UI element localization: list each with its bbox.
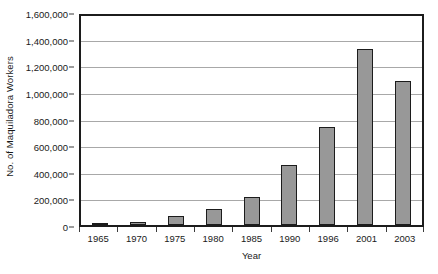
x-axis-tick-cell bbox=[156, 227, 194, 232]
x-axis-tick-label: 1975 bbox=[156, 233, 194, 249]
bar bbox=[206, 209, 222, 225]
y-axis-tick-mark bbox=[69, 200, 74, 201]
bar-slot bbox=[119, 16, 157, 225]
x-axis-tick-cell bbox=[309, 227, 347, 232]
y-axis-title-label: No. of Maquiladora Workers bbox=[4, 56, 15, 177]
x-axis-tick-cell bbox=[79, 227, 117, 232]
y-axis-tick-labels: 0200,000400,000600,000800,0001,000,0001,… bbox=[18, 14, 74, 227]
y-axis-tick-label: 1,600,000 bbox=[26, 9, 68, 20]
y-axis-tick-mark bbox=[69, 93, 74, 94]
bar bbox=[319, 127, 335, 225]
x-axis-tick-cell bbox=[386, 227, 424, 232]
bar-slot bbox=[270, 16, 308, 225]
x-axis-tick-label: 1980 bbox=[194, 233, 232, 249]
y-axis-tick-label: 1,000,000 bbox=[26, 88, 68, 99]
bar-slot bbox=[157, 16, 195, 225]
y-axis-tick-label: 600,000 bbox=[34, 142, 68, 153]
x-axis-tick-mark bbox=[309, 227, 310, 232]
bar bbox=[92, 223, 108, 225]
x-axis-tick-mark bbox=[386, 227, 387, 232]
x-axis-tick-mark bbox=[271, 227, 272, 232]
x-axis-tick-mark bbox=[117, 227, 118, 232]
bar bbox=[244, 197, 260, 225]
y-axis-tick-label: 1,200,000 bbox=[26, 62, 68, 73]
y-axis-tick-mark bbox=[69, 147, 74, 148]
y-axis-tick-label: 200,000 bbox=[34, 195, 68, 206]
x-axis-tick-label: 1965 bbox=[79, 233, 117, 249]
y-axis-tick-label: 800,000 bbox=[34, 115, 68, 126]
x-axis-tick-mark bbox=[423, 227, 424, 232]
x-axis-tick-mark bbox=[79, 227, 80, 232]
x-axis-tick-mark bbox=[194, 227, 195, 232]
bar-slot bbox=[81, 16, 119, 225]
x-axis-tick-label: 1996 bbox=[309, 233, 347, 249]
bar bbox=[281, 165, 297, 225]
x-axis-tick-mark bbox=[347, 227, 348, 232]
x-axis-tick-marks bbox=[79, 227, 424, 232]
bar-chart-figure: No. of Maquiladora Workers 0200,000400,0… bbox=[0, 0, 438, 274]
x-axis-tick-cell bbox=[232, 227, 270, 232]
y-axis-tick-label: 1,400,000 bbox=[26, 35, 68, 46]
x-axis-tick-mark bbox=[232, 227, 233, 232]
bar-slot bbox=[346, 16, 384, 225]
y-axis-tick-mark bbox=[69, 120, 74, 121]
bar bbox=[357, 49, 373, 225]
x-axis-tick-cell bbox=[117, 227, 155, 232]
x-axis-tick-cell bbox=[271, 227, 309, 232]
bar bbox=[130, 222, 146, 225]
x-axis-tick-labels: 196519701975198019851990199620012003 bbox=[79, 233, 424, 249]
bar-slot bbox=[384, 16, 422, 225]
y-axis-tick-mark bbox=[69, 40, 74, 41]
bar bbox=[395, 81, 411, 225]
x-axis-tick-cell bbox=[194, 227, 232, 232]
x-axis-tick-label: 2003 bbox=[386, 233, 424, 249]
x-axis-title: Year bbox=[79, 250, 424, 261]
x-axis-tick-label: 1990 bbox=[271, 233, 309, 249]
y-axis-tick-label: 400,000 bbox=[34, 168, 68, 179]
bar-slot bbox=[308, 16, 346, 225]
x-axis-tick-label: 1985 bbox=[232, 233, 270, 249]
bar-slot bbox=[233, 16, 271, 225]
y-axis-tick-mark bbox=[69, 14, 74, 15]
bar bbox=[168, 216, 184, 225]
x-axis-tick-mark bbox=[156, 227, 157, 232]
y-axis-tick-mark bbox=[69, 227, 74, 228]
x-axis-tick-label: 1970 bbox=[117, 233, 155, 249]
y-axis-title: No. of Maquiladora Workers bbox=[0, 0, 18, 232]
x-axis-tick-cell bbox=[347, 227, 385, 232]
x-axis-tick-label: 2001 bbox=[347, 233, 385, 249]
y-axis-tick-mark bbox=[69, 67, 74, 68]
bar-series bbox=[81, 16, 422, 225]
plot-area bbox=[79, 14, 424, 227]
y-axis-tick-label: 0 bbox=[63, 222, 68, 233]
bar-slot bbox=[195, 16, 233, 225]
y-axis-tick-mark bbox=[69, 173, 74, 174]
